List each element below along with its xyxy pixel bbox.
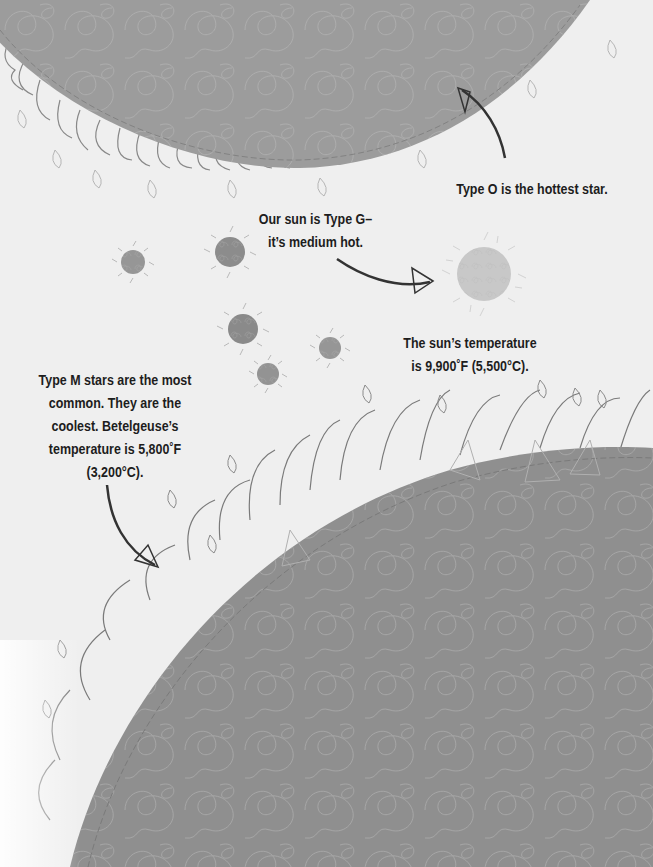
caption-line: Type M stars are the most — [32, 369, 199, 392]
caption-sun-temperature: The sun’s temperature is 9,900˚F (5,500°… — [397, 332, 543, 378]
caption-line: Type O is the hottest star. — [446, 178, 618, 201]
arrow-type-g — [337, 259, 433, 293]
caption-line: Our sun is Type G– — [257, 208, 373, 231]
caption-line: it’s medium hot. — [257, 231, 373, 254]
caption-line: common. They are the — [32, 392, 199, 415]
caption-type-g: Our sun is Type G– it’s medium hot. — [257, 208, 373, 254]
arrow-type-m — [107, 485, 158, 567]
book-page: Type O is the hottest star. Our sun is T… — [0, 0, 653, 867]
caption-line: temperature is 5,800˚F — [32, 438, 199, 461]
caption-line: is 9,900˚F (5,500°C). — [397, 355, 543, 378]
caption-line: coolest. Betelgeuse’s — [32, 415, 199, 438]
caption-type-m: Type M stars are the most common. They a… — [32, 369, 199, 484]
page-edge-fade — [0, 640, 80, 867]
caption-type-o: Type O is the hottest star. — [446, 178, 618, 201]
caption-line: The sun’s temperature — [397, 332, 543, 355]
type-g-sun — [442, 232, 526, 316]
caption-line: (3,200°C). — [32, 461, 199, 484]
type-o-star — [0, 0, 616, 198]
